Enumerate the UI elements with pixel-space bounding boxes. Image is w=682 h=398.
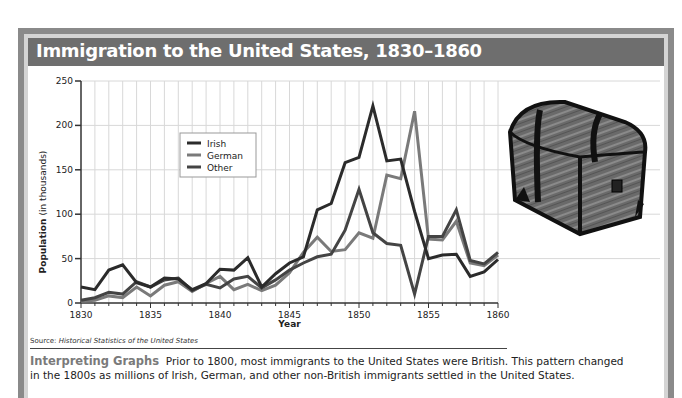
x-tick-label: 1860 [487,310,510,320]
legend-label-other: Other [207,163,233,173]
x-axis-label: Year [277,319,301,329]
interpreting-graphs-caption: Interpreting Graphs Prior to 1800, most … [30,354,630,382]
source-text: Historical Statistics of the United Stat… [59,337,198,345]
x-tick-label: 1840 [209,310,232,320]
y-axis-label: Population (in thousands) [38,151,48,274]
chart-legend: IrishGermanOther [180,133,256,177]
divider [30,348,507,349]
x-tick-label: 1850 [348,310,371,320]
interpreting-heading: Interpreting Graphs [30,354,159,368]
x-tick-label: 1835 [139,310,162,320]
y-tick-label: 100 [56,209,73,219]
x-tick-label: 1855 [417,310,440,320]
x-tick-label: 1830 [70,310,93,320]
legend-label-german: German [207,151,243,161]
treasure-chest-icon [500,92,650,241]
y-tick-label: 0 [67,298,73,308]
y-tick-label: 50 [62,254,74,264]
legend-label-irish: Irish [207,139,226,149]
y-tick-label: 250 [56,76,73,86]
source-label: Source: [30,337,56,345]
y-tick-label: 150 [56,165,73,175]
y-tick-label: 200 [56,120,73,130]
source-note: Source: Historical Statistics of the Uni… [30,337,198,345]
